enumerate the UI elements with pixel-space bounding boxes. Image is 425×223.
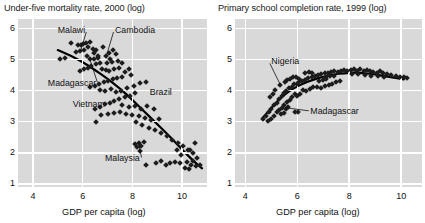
annotation-leader-line — [81, 32, 87, 51]
annotation-label-nigeria: Nigeria — [271, 57, 299, 66]
annotation-label-vietnam: Vietnam — [73, 100, 105, 109]
x-axis-label-right: GDP per capita (log) — [276, 207, 360, 217]
dual-scatter-figure: Under-five mortality rate, 2000 (log) 12… — [0, 0, 425, 223]
panel-primary-school-completion: Primary school completion rate, 1999 (lo… — [212, 0, 425, 223]
annotation-label-madagascar: Madagascar — [48, 79, 96, 88]
annotation-leader-line — [106, 32, 113, 56]
panel-under-five-mortality: Under-five mortality rate, 2000 (log) 12… — [0, 0, 212, 223]
annotation-label-malawi: Malawi — [58, 26, 85, 35]
x-axis-label-left: GDP per capita (log) — [62, 207, 146, 217]
annotation-label-cambodia: Cambodia — [115, 26, 155, 35]
annotation-label-malaysia: Malaysia — [105, 154, 140, 163]
annotation-leader-line — [270, 63, 281, 85]
annotation-label-brazil: Brazil — [150, 88, 172, 97]
leader-lines — [0, 0, 212, 223]
annotation-label-madagascar: Madagascar — [310, 107, 358, 116]
annotation-leader-line — [285, 108, 309, 111]
